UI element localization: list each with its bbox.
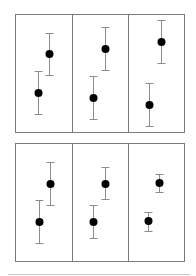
data-point-marker [36, 218, 44, 226]
data-point-marker [102, 180, 110, 188]
panel-r1-c0 [36, 162, 55, 244]
data-point-marker [145, 217, 153, 225]
data-point-marker [156, 179, 164, 187]
panel-r0-c2 [146, 20, 166, 127]
errorbar-chart [0, 0, 196, 276]
data-point-marker [35, 89, 43, 97]
data-point-marker [146, 101, 154, 109]
data-point-marker [158, 38, 166, 46]
data-point-marker [90, 218, 98, 226]
panel-r1-c1 [90, 167, 110, 239]
data-point-marker [90, 94, 98, 102]
panel-r1-c2 [145, 174, 164, 232]
data-points [35, 20, 166, 244]
data-point-marker [46, 50, 54, 58]
data-point-marker [47, 180, 55, 188]
panel-r0-c0 [35, 33, 54, 115]
panel-r0-c1 [90, 27, 110, 120]
data-point-marker [102, 45, 110, 53]
